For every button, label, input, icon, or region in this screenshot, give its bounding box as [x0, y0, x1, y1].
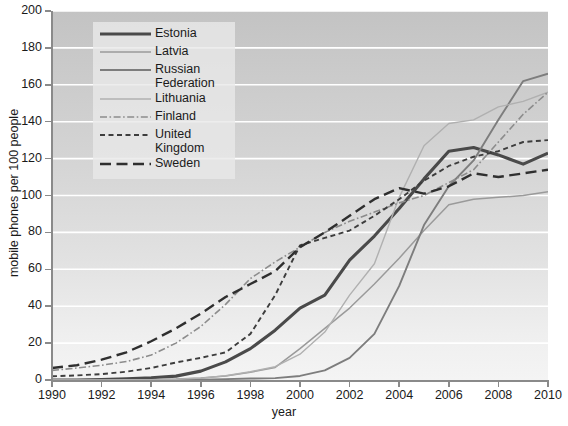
legend-line-swatch	[99, 62, 153, 79]
x-tick-mark	[498, 381, 500, 387]
legend-line-swatch	[99, 127, 153, 144]
y-axis-line	[51, 11, 53, 381]
x-tick-mark	[547, 381, 549, 387]
y-tick-mark	[45, 379, 51, 381]
legend-line-swatch	[99, 156, 153, 173]
x-tick-label: 2010	[526, 388, 568, 402]
legend-item-label: Latvia	[153, 44, 188, 58]
chart-legend: EstoniaLatviaRussian FederationLithuania…	[93, 22, 235, 179]
legend-item-sweden[interactable]: Sweden	[99, 156, 229, 173]
y-tick-mark	[45, 121, 51, 123]
y-tick-label: 0	[0, 373, 42, 385]
legend-item-label: Estonia	[153, 26, 197, 40]
x-tick-mark	[299, 381, 301, 387]
legend-line-swatch	[99, 109, 153, 126]
legend-line-swatch	[99, 91, 153, 108]
legend-item-finland[interactable]: Finland	[99, 109, 229, 126]
x-tick-label: 1994	[129, 388, 173, 402]
y-tick-mark	[45, 47, 51, 49]
legend-item-latvia[interactable]: Latvia	[99, 44, 229, 61]
x-tick-mark	[51, 381, 53, 387]
x-tick-mark	[250, 381, 252, 387]
y-tick-mark	[45, 84, 51, 86]
x-tick-label: 1998	[228, 388, 272, 402]
y-tick-mark	[45, 342, 51, 344]
x-tick-label: 2002	[328, 388, 372, 402]
legend-item-label: United Kingdom	[153, 127, 229, 155]
series-line-estonia	[52, 148, 548, 380]
x-tick-label: 1990	[30, 388, 74, 402]
x-tick-mark	[448, 381, 450, 387]
x-tick-mark	[349, 381, 351, 387]
legend-item-label: Lithuania	[153, 91, 206, 105]
legend-item-lithuania[interactable]: Lithuania	[99, 91, 229, 108]
y-tick-mark	[45, 195, 51, 197]
x-axis-title: year	[0, 405, 568, 419]
legend-line-swatch	[99, 44, 153, 61]
legend-item-label: Finland	[153, 109, 196, 123]
y-tick-mark	[45, 232, 51, 234]
x-tick-mark	[398, 381, 400, 387]
y-tick-label: 200	[0, 4, 42, 16]
x-tick-mark	[101, 381, 103, 387]
x-tick-label: 2000	[278, 388, 322, 402]
x-tick-label: 2004	[377, 388, 421, 402]
y-tick-label: 20	[0, 336, 42, 348]
x-tick-label: 1996	[179, 388, 223, 402]
x-tick-label: 2008	[476, 388, 520, 402]
x-tick-mark	[150, 381, 152, 387]
legend-item-label: Sweden	[153, 156, 200, 170]
legend-line-swatch	[99, 26, 153, 43]
y-tick-label: 40	[0, 299, 42, 311]
x-tick-label: 1992	[80, 388, 124, 402]
chart-figure: 020406080100120140160180200 199019921994…	[0, 0, 568, 426]
y-tick-mark	[45, 158, 51, 160]
y-tick-mark	[45, 305, 51, 307]
y-tick-label: 180	[0, 41, 42, 53]
y-axis-title: mobile phones per 100 people	[7, 93, 21, 293]
legend-item-label: Russian Federation	[153, 62, 229, 90]
y-tick-mark	[45, 10, 51, 12]
y-tick-label: 160	[0, 78, 42, 90]
legend-item-russian-federation[interactable]: Russian Federation	[99, 62, 229, 90]
x-tick-mark	[200, 381, 202, 387]
legend-item-united-kingdom[interactable]: United Kingdom	[99, 127, 229, 155]
y-tick-mark	[45, 269, 51, 271]
x-tick-label: 2006	[427, 388, 471, 402]
legend-item-estonia[interactable]: Estonia	[99, 26, 229, 43]
